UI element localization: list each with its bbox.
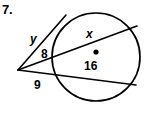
circle-diagram [0, 0, 146, 114]
secant-external-length-label-8: 8 [41, 48, 48, 60]
center-dot-icon [93, 49, 98, 54]
chord-length-label-x: x [86, 28, 93, 40]
circle-shape [52, 13, 140, 101]
problem-number-label: 7. [2, 3, 12, 16]
chord-length-label-16: 16 [84, 60, 97, 72]
tangent-length-label-y: y [30, 33, 37, 45]
geometry-problem-figure: 7. y 8 9 x 16 [0, 0, 146, 114]
secant-external-length-label-9: 9 [34, 79, 41, 91]
